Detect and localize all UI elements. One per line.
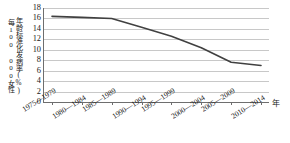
- x-axis-tickmark: [201, 102, 202, 105]
- x-axis-tickmark: [82, 102, 83, 105]
- y-axis-title-line-1: 年龄标准化发病率(%): [14, 17, 22, 95]
- y-axis-tick-labels: 181614121086420: [27, 8, 41, 102]
- x-axis-tickmark: [171, 102, 172, 105]
- x-axis-tickmark: [261, 102, 262, 105]
- x-axis-tickmark: [142, 102, 143, 105]
- plot-area: [43, 8, 269, 103]
- line-chart-figure: 年龄标准化发病率(%) 每100 000女性 181614121086420 1…: [0, 0, 290, 143]
- y-axis-tick: 18: [33, 4, 41, 12]
- y-axis-title: 年龄标准化发病率(%) 每100 000女性: [1, 4, 27, 108]
- y-axis-tick: 4: [37, 77, 41, 85]
- x-axis-tickmark: [52, 102, 53, 105]
- x-axis-tickmark: [112, 102, 113, 105]
- y-axis-tick: 0: [37, 98, 41, 106]
- x-axis-tickmark: [231, 102, 232, 105]
- x-axis-title: 年: [272, 100, 280, 108]
- y-axis-tick: 8: [37, 56, 41, 64]
- y-axis-tick: 6: [37, 66, 41, 74]
- y-axis-tick: 2: [37, 87, 41, 95]
- y-axis-tick: 16: [33, 14, 41, 22]
- series-line: [44, 8, 269, 102]
- y-axis-tick: 14: [33, 25, 41, 33]
- y-axis-tick: 10: [33, 46, 41, 54]
- y-axis-tick: 12: [33, 35, 41, 43]
- y-axis-title-line-2: 每100 000女性: [6, 19, 14, 93]
